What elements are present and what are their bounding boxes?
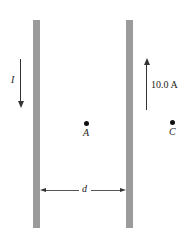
left-wire bbox=[33, 20, 40, 228]
point-c-label: C bbox=[169, 127, 176, 137]
right-current-label: 10.0 A bbox=[151, 80, 178, 90]
separation-label: d bbox=[82, 184, 87, 194]
right-wire bbox=[126, 20, 133, 228]
left-current-label: I bbox=[11, 75, 14, 85]
point-a-marker bbox=[84, 121, 89, 126]
point-a-label: A bbox=[83, 128, 89, 138]
point-c-marker bbox=[170, 120, 175, 125]
